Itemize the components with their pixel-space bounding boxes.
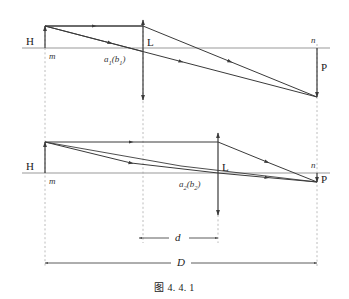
upper-label-L: L	[147, 37, 154, 48]
lower-label-focal-point: a2(b2)	[179, 180, 201, 191]
figure-caption: 图 4. 4. 1	[0, 279, 349, 294]
dimension-label-d: d	[175, 232, 181, 243]
upper-label-P: P	[321, 62, 327, 73]
lower-ray-secondary	[45, 142, 317, 182]
lower-label-H: H	[26, 161, 34, 172]
lower-focal-close-paren: )	[198, 179, 201, 189]
lower-label-P: P	[321, 174, 327, 185]
lower-label-L: L	[222, 162, 229, 173]
lower-label-m: m	[49, 177, 56, 186]
upper-label-focal-point: a1(b1)	[104, 55, 126, 66]
dimension-label-D: D	[177, 257, 185, 268]
upper-label-m: m	[49, 52, 56, 61]
upper-label-n: n	[311, 36, 316, 45]
ray-diagram-svg	[0, 0, 349, 299]
upper-label-H: H	[26, 36, 34, 47]
upper-ray-parallel-refracted	[143, 26, 317, 97]
upper-optical-system	[22, 20, 330, 100]
lower-label-n: n	[311, 161, 316, 170]
dashed-guide-lines	[45, 22, 317, 266]
upper-focal-close-paren: )	[123, 54, 126, 64]
figure-container: H m L a1(b1) n P H m L a2(b2) n P d D 图 …	[0, 0, 349, 299]
lower-optical-system	[22, 133, 330, 215]
